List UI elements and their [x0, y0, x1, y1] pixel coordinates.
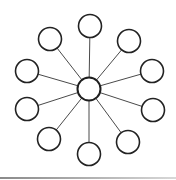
edge-node-lower-left: [56, 98, 82, 130]
node-bottom: [78, 143, 101, 166]
node-lower-right: [117, 131, 140, 154]
hub-spoke-diagram: [0, 0, 176, 180]
node-top: [79, 15, 102, 38]
node-lower-left: [38, 128, 61, 151]
edge-node-lower-right: [96, 98, 121, 132]
edge-node-right-lower: [100, 93, 142, 107]
node-left-upper: [16, 60, 39, 83]
node-left-lower: [16, 98, 39, 121]
edge-node-left-upper: [38, 74, 78, 86]
bottom-divider: [0, 177, 176, 179]
edge-node-upper-right: [96, 50, 121, 80]
hub-node: [78, 78, 101, 101]
edge-node-right-upper: [100, 74, 141, 86]
edge-node-left-lower: [38, 93, 78, 106]
node-right-lower: [142, 99, 165, 122]
node-upper-right: [118, 30, 141, 53]
node-right-upper: [141, 60, 164, 83]
edge-node-top: [89, 38, 90, 78]
edge-node-upper-left: [57, 48, 82, 80]
node-upper-left: [39, 28, 62, 51]
